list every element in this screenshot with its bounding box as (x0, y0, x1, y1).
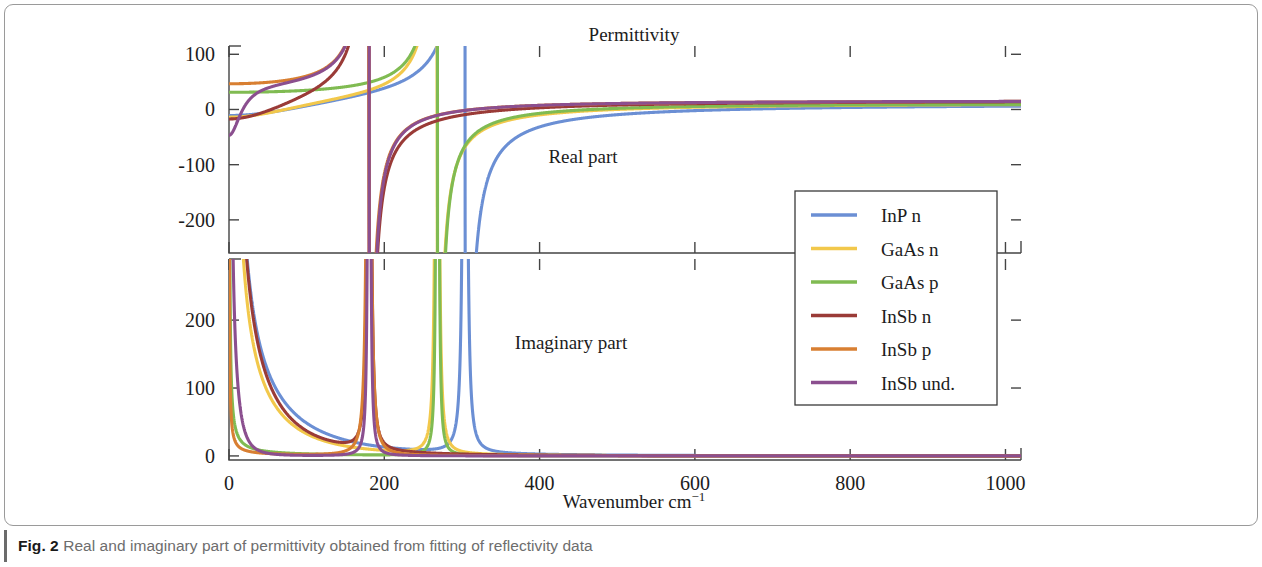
legend-label-gaas-p: GaAs p (881, 272, 939, 293)
xtick-label: 800 (835, 472, 865, 494)
xtick-label: 200 (369, 472, 399, 494)
caption-text: Fig. 2 Real and imaginary part of permit… (4, 537, 593, 555)
imag-ytick-label: 0 (205, 445, 215, 467)
chart-title: Permittivity (589, 24, 680, 45)
real-ytick-label: -200 (178, 209, 215, 231)
legend-label-inp-n: InP n (881, 205, 921, 226)
permittivity-chart: -200-1000100010020002004006008001000Perm… (5, 5, 1259, 527)
xtick-label: 1000 (985, 472, 1025, 494)
xtick-label: 0 (224, 472, 234, 494)
real-ytick-label: 100 (185, 43, 215, 65)
x-axis-label: Wavenumber cm−1 (563, 489, 706, 513)
legend-label-insb-und-: InSb und. (881, 373, 955, 394)
real-ytick-label: 0 (205, 98, 215, 120)
chart-legend: InP nGaAs nGaAs pInSb nInSb pInSb und. (795, 191, 997, 405)
real-ytick-label: -100 (178, 154, 215, 176)
imag-ytick-label: 100 (185, 377, 215, 399)
figure-caption: Fig. 2 Real and imaginary part of permit… (4, 530, 1258, 562)
xtick-label: 400 (525, 472, 555, 494)
caption-body: Real and imaginary part of permittivity … (63, 537, 593, 554)
legend-label-gaas-n: GaAs n (881, 239, 939, 260)
caption-figure-label: Fig. 2 (18, 537, 59, 554)
figure-frame: -200-1000100010020002004006008001000Perm… (4, 4, 1258, 526)
imaginary-part-annotation: Imaginary part (515, 332, 628, 353)
legend-label-insb-n: InSb n (881, 306, 932, 327)
legend-label-insb-p: InSb p (881, 339, 931, 360)
imag-ytick-label: 200 (185, 309, 215, 331)
caption-accent-bar (4, 530, 7, 562)
real-part-annotation: Real part (548, 146, 618, 167)
